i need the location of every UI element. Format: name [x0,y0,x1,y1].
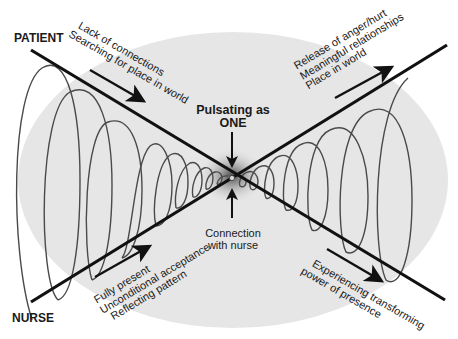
nurse-label: NURSE [12,312,54,325]
center-marker [229,175,234,180]
diagram-canvas [0,0,458,339]
center-top-label: Pulsating as ONE [192,104,274,130]
patient-label: PATIENT [14,32,64,45]
center-top-line2: ONE [192,117,274,130]
